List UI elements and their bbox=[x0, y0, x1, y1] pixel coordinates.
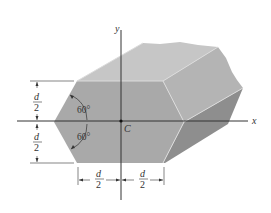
dim-left-lower-num: d bbox=[34, 131, 40, 142]
x-axis-label: x bbox=[251, 115, 257, 126]
dim-left-upper-den: 2 bbox=[34, 102, 39, 113]
dim-bottom-right-num: d bbox=[140, 168, 146, 179]
centroid-point bbox=[119, 119, 122, 122]
y-axis-label: y bbox=[114, 23, 120, 34]
dim-left-lower-den: 2 bbox=[34, 142, 39, 153]
lower-angle-label: 60° bbox=[77, 132, 91, 142]
dim-bottom-right-den: 2 bbox=[140, 179, 145, 190]
front-hexagon-face bbox=[54, 81, 184, 163]
dim-bottom-left-num: d bbox=[96, 168, 102, 179]
upper-angle-label: 60° bbox=[77, 105, 91, 115]
dim-left-upper-num: d bbox=[34, 91, 40, 102]
hexagonal-prism-diagram: x y C d 2 d 2 d 2 d 2 60° 60° bbox=[0, 0, 271, 213]
dim-bottom-left-den: 2 bbox=[96, 179, 101, 190]
centroid-label: C bbox=[124, 123, 131, 134]
